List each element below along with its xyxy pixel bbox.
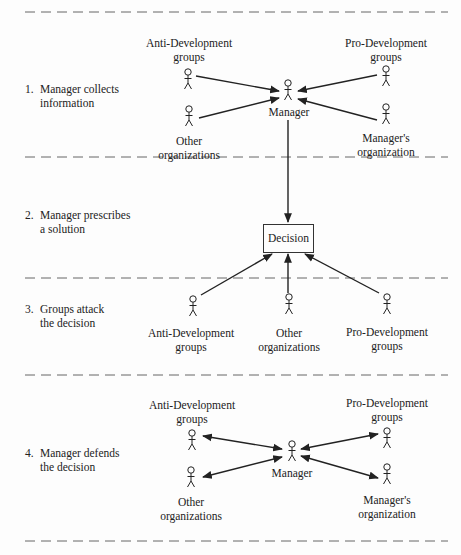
s4-other-org-label: Other organizations (160, 495, 222, 523)
s1-other-org-label: Other organizations (158, 134, 220, 162)
s1-manager-label: Manager (269, 105, 310, 119)
section3-arrows (201, 254, 379, 295)
arrow-other-manager (203, 457, 282, 477)
arrow-anti-dev-to-manager (196, 76, 279, 91)
s3-other-org-label: Other organizations (258, 326, 320, 354)
s1-anti-dev-label: Anti-Development groups (146, 36, 232, 64)
s3-pro-dev-label: Pro-Development groups (346, 325, 428, 353)
anti-dev-figure-icon (189, 430, 196, 450)
anti-dev-figure-icon (185, 69, 192, 89)
managers-org-figure-icon (383, 104, 390, 124)
step-3-label: 3.Groups attack the decision (25, 302, 104, 330)
anti-dev-figure-icon (190, 296, 197, 316)
arrow-other-to-manager (199, 98, 279, 118)
section3-figures (190, 294, 391, 316)
s3-anti-dev-label: Anti-Development groups (148, 326, 234, 354)
pro-dev-figure-icon (384, 294, 391, 314)
step-4-label: 4.Manager defends the decision (25, 446, 120, 474)
step-2-label: 2.Manager prescribes a solution (25, 208, 130, 236)
s4-pro-dev-label: Pro-Development groups (346, 396, 428, 424)
s4-managers-org-label: Manager's organization (358, 493, 415, 521)
s1-managers-org-label: Manager's organization (357, 131, 414, 159)
decision-box: Decision (263, 224, 314, 253)
s4-manager-label: Manager (272, 466, 313, 480)
arrow-manager-pro-dev (301, 434, 378, 449)
other-org-figure-icon (188, 467, 195, 487)
pro-dev-figure-icon (384, 428, 391, 448)
manager-figure-icon (285, 80, 292, 100)
arrow-anti-dev-to-decision (201, 254, 272, 295)
s1-pro-dev-label: Pro-Development groups (345, 36, 427, 64)
manager-figure-icon (289, 441, 296, 461)
s4-anti-dev-label: Anti-Development groups (149, 398, 235, 426)
arrow-pro-dev-to-decision (305, 254, 379, 293)
arrow-pro-dev-to-manager (298, 75, 377, 91)
other-org-figure-icon (186, 106, 193, 126)
pro-dev-figure-icon (383, 66, 390, 86)
other-org-figure-icon (286, 294, 293, 314)
arrow-anti-dev-manager (203, 436, 282, 449)
managers-org-figure-icon (384, 464, 391, 484)
step-1-label: 1.Manager collects information (25, 82, 119, 110)
arrow-managers-org-to-manager (298, 99, 377, 120)
